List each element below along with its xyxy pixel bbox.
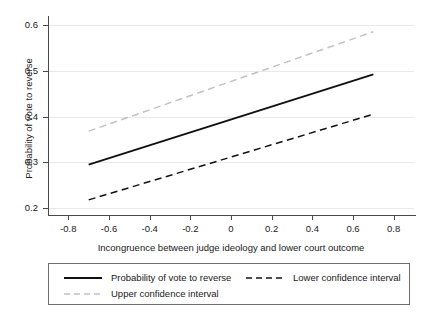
legend-swatch-solid-line-icon bbox=[63, 273, 103, 283]
x-axis-line bbox=[48, 215, 416, 216]
y-axis-line bbox=[48, 16, 49, 216]
x-tick-label: 0.8 bbox=[387, 224, 400, 234]
x-tick-label: -0.4 bbox=[141, 224, 157, 234]
legend: Probability of vote to reverse Upper con… bbox=[48, 263, 410, 305]
legend-label: Upper confidence interval bbox=[111, 288, 219, 299]
x-tick-label: 0 bbox=[228, 224, 233, 234]
x-tick-mark bbox=[109, 215, 110, 220]
gridline bbox=[48, 117, 414, 118]
x-tick-mark bbox=[150, 215, 151, 220]
y-tick-mark bbox=[43, 117, 48, 118]
x-tick-label: 0.6 bbox=[346, 224, 359, 234]
x-tick-mark bbox=[68, 215, 69, 220]
series-line bbox=[89, 74, 374, 164]
x-tick-mark bbox=[190, 215, 191, 220]
y-tick-mark bbox=[43, 162, 48, 163]
y-axis-title: Probability of vote to reverse bbox=[23, 29, 34, 209]
gridline bbox=[48, 71, 414, 72]
legend-label: Probability of vote to reverse bbox=[111, 272, 231, 283]
series-line bbox=[89, 114, 374, 200]
x-tick-mark bbox=[394, 215, 395, 220]
y-tick-mark bbox=[43, 25, 48, 26]
x-tick-mark bbox=[312, 215, 313, 220]
legend-entry-lower-ci: Lower confidence interval bbox=[245, 272, 401, 283]
legend-swatch-black-dashed-line-icon bbox=[245, 273, 285, 283]
legend-entry-upper-ci: Upper confidence interval bbox=[63, 288, 219, 299]
legend-entry-probability: Probability of vote to reverse bbox=[63, 272, 231, 283]
y-tick-mark bbox=[43, 208, 48, 209]
chart-figure: 0.20.30.40.50.6 -0.8-0.6-0.4-0.200.20.40… bbox=[0, 0, 430, 320]
legend-label: Lower confidence interval bbox=[293, 272, 401, 283]
y-tick-mark bbox=[43, 71, 48, 72]
x-tick-mark bbox=[231, 215, 232, 220]
x-tick-label: -0.2 bbox=[182, 224, 198, 234]
gridline bbox=[48, 25, 414, 26]
x-tick-label: 0.2 bbox=[265, 224, 278, 234]
x-tick-label: -0.8 bbox=[60, 224, 76, 234]
gridline bbox=[48, 208, 414, 209]
x-tick-mark bbox=[353, 215, 354, 220]
x-tick-label: 0.4 bbox=[306, 224, 319, 234]
gridline bbox=[48, 162, 414, 163]
legend-swatch-gray-dashed-line-icon bbox=[63, 289, 103, 299]
x-tick-mark bbox=[272, 215, 273, 220]
x-axis-title: Incongruence between judge ideology and … bbox=[48, 242, 414, 253]
x-tick-label: -0.6 bbox=[101, 224, 117, 234]
